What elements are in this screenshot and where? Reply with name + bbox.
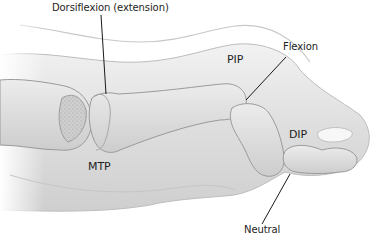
label-flexion: Flexion bbox=[283, 41, 318, 52]
toe-anatomy-illustration bbox=[0, 0, 372, 237]
label-dorsiflexion: Dorsiflexion (extension) bbox=[52, 2, 169, 13]
label-dip: DIP bbox=[289, 128, 307, 141]
label-mtp: MTP bbox=[88, 160, 111, 173]
label-neutral: Neutral bbox=[244, 224, 280, 235]
label-pip: PIP bbox=[227, 53, 243, 66]
